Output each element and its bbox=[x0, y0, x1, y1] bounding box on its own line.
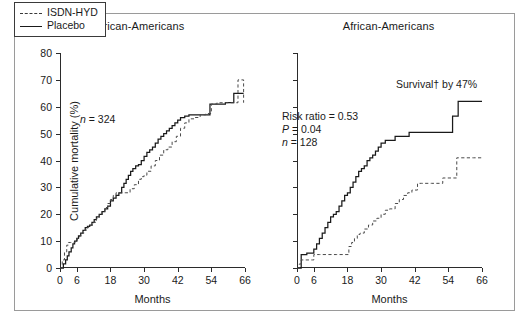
p-value: = 0.04 bbox=[292, 123, 322, 135]
x-tick-label-42: 42 bbox=[172, 275, 184, 286]
n-value-left: = 324 bbox=[89, 113, 116, 125]
y-axis-title: Cumulative mortality (%) bbox=[68, 101, 80, 221]
x-tick-label-18: 18 bbox=[105, 275, 117, 286]
figure-root: Non-African-Americans 01020304050607080 … bbox=[0, 0, 530, 327]
x-tick-66 bbox=[482, 268, 483, 272]
x-tick-6 bbox=[77, 268, 78, 272]
x-tick-42 bbox=[415, 268, 416, 272]
plot-area-left: 01020304050607080 061830425466 Cumulativ… bbox=[60, 53, 245, 268]
x-axis-title-left: Months bbox=[60, 293, 245, 305]
y-tick-label-80: 80 bbox=[40, 48, 52, 59]
panel-title-right: African-Americans bbox=[256, 20, 521, 32]
panel-african-americans: African-Americans 061830425466 Months bbox=[265, 0, 530, 327]
y-tick-label-30: 30 bbox=[40, 182, 52, 193]
x-tick-18 bbox=[110, 268, 111, 272]
annotation-sample-size-right: n = 128 bbox=[282, 136, 358, 149]
x-tick-label-54: 54 bbox=[206, 275, 218, 286]
y-tick-label-50: 50 bbox=[40, 128, 52, 139]
x-tick-30 bbox=[144, 268, 145, 272]
legend-label-placebo: Placebo bbox=[47, 20, 85, 31]
x-tick-label-6: 6 bbox=[74, 275, 80, 286]
legend-label-isdn-hyd: ISDN-HYD bbox=[47, 7, 98, 18]
n-label-right: n bbox=[282, 136, 288, 148]
y-tick-label-70: 70 bbox=[40, 75, 52, 86]
legend-swatch-dashed-icon bbox=[20, 9, 42, 17]
y-tick-label-60: 60 bbox=[40, 102, 52, 113]
x-tick-30 bbox=[381, 268, 382, 272]
x-tick-label-0: 0 bbox=[57, 275, 63, 286]
x-tick-label-30: 30 bbox=[375, 275, 387, 286]
curve-isdn-hyd bbox=[60, 80, 244, 268]
x-tick-label-30: 30 bbox=[138, 275, 150, 286]
panel-non-african-americans: Non-African-Americans 01020304050607080 … bbox=[0, 0, 265, 327]
x-axis-title-right: Months bbox=[297, 293, 482, 305]
annotation-sample-size-left: n = 324 bbox=[80, 113, 115, 126]
x-tick-54 bbox=[211, 268, 212, 272]
p-label: P bbox=[282, 123, 289, 135]
y-tick-label-40: 40 bbox=[40, 155, 52, 166]
curves-left bbox=[60, 53, 245, 268]
x-tick-label-0: 0 bbox=[294, 275, 300, 286]
n-label-left: n bbox=[80, 113, 86, 125]
x-tick-6 bbox=[314, 268, 315, 272]
x-tick-66 bbox=[245, 268, 246, 272]
annotation-risk-ratio: Risk ratio = 0.53 bbox=[282, 110, 358, 123]
y-tick-label-20: 20 bbox=[40, 209, 52, 220]
x-tick-label-42: 42 bbox=[409, 275, 421, 286]
x-tick-54 bbox=[448, 268, 449, 272]
x-tick-label-66: 66 bbox=[239, 275, 251, 286]
legend: ISDN-HYD Placebo bbox=[14, 2, 106, 37]
y-tick-label-10: 10 bbox=[40, 236, 52, 247]
x-tick-label-54: 54 bbox=[443, 275, 455, 286]
curve-isdn-hyd bbox=[297, 158, 482, 268]
x-tick-42 bbox=[178, 268, 179, 272]
x-tick-label-18: 18 bbox=[342, 275, 354, 286]
annotation-p-value: P = 0.04 bbox=[282, 123, 358, 136]
x-tick-18 bbox=[347, 268, 348, 272]
x-tick-label-6: 6 bbox=[311, 275, 317, 286]
annotation-survival-increase: Survival† by 47% bbox=[396, 78, 477, 91]
annotation-stats-block: Risk ratio = 0.53 P = 0.04 n = 128 bbox=[282, 110, 358, 149]
legend-item-isdn-hyd: ISDN-HYD bbox=[20, 6, 98, 19]
legend-item-placebo: Placebo bbox=[20, 19, 98, 32]
y-tick-label-0: 0 bbox=[46, 263, 52, 274]
legend-swatch-solid-icon bbox=[20, 22, 42, 30]
x-tick-label-66: 66 bbox=[476, 275, 488, 286]
n-value-right: = 128 bbox=[291, 136, 318, 148]
